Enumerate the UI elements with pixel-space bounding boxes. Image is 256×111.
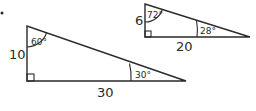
- small-right-angle-arc: [197, 21, 198, 38]
- small-horizontal-side-label: 20: [176, 39, 193, 54]
- small-top-angle-label: 72°: [147, 10, 163, 20]
- small-right-angle-marker: [145, 31, 151, 37]
- large-horizontal-side-label: 30: [97, 85, 114, 100]
- large-right-angle-marker: [27, 74, 34, 81]
- large-vertical-side-label: 10: [9, 47, 26, 62]
- large-right-angle-arc: [130, 64, 132, 82]
- large-bottom-right-angle-label: 30°: [135, 70, 151, 80]
- bullet-dot: [1, 12, 4, 15]
- small-triangle: 6 20 72° 28°: [135, 4, 250, 54]
- diagram-canvas: 10 30 60° 30° 6 20 72° 28°: [0, 0, 256, 111]
- large-top-angle-label: 60°: [31, 37, 47, 47]
- large-triangle-shape: [27, 26, 186, 81]
- small-vertical-side-label: 6: [135, 13, 143, 28]
- small-bottom-right-angle-label: 28°: [200, 26, 216, 36]
